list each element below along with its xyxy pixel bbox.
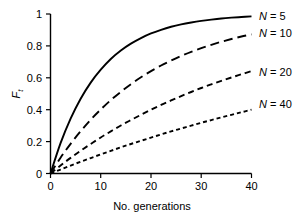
series-label-n-20: N = 20	[259, 66, 292, 78]
y-tick-label-2: 0.4	[27, 104, 42, 116]
curve-n-10	[51, 34, 252, 173]
x-tick-label-0: 0	[47, 180, 53, 192]
y-tick-label-1: 0.2	[27, 136, 42, 148]
curve-n-5	[51, 16, 252, 173]
x-tick-label-4: 40	[245, 180, 257, 192]
y-tick-label-5: 1	[36, 8, 42, 20]
series-label-n-40: N = 40	[259, 98, 292, 110]
y-tick-label-4: 0.8	[27, 40, 42, 52]
x-tick-label-3: 30	[195, 180, 207, 192]
data-series-group	[51, 16, 252, 173]
y-tick-label-3: 0.6	[27, 72, 42, 84]
svg-text:Ft: Ft	[10, 89, 25, 99]
curve-n-20	[51, 71, 252, 173]
y-axis-title-group: Ft	[10, 89, 25, 99]
series-label-n-10: N = 10	[259, 27, 292, 39]
x-axis-title: No. generations	[113, 200, 191, 212]
series-labels-group: N = 5 N = 10 N = 20 N = 40	[259, 10, 292, 110]
y-axis-title-subscript: t	[16, 89, 25, 92]
series-label-n-5: N = 5	[259, 10, 286, 22]
x-tick-label-2: 20	[145, 180, 157, 192]
x-tick-label-1: 10	[95, 180, 107, 192]
axis-group	[50, 14, 252, 174]
y-tick-labels: 0 0.2 0.4 0.6 0.8 1	[27, 8, 42, 180]
y-tick-label-0: 0	[36, 168, 42, 180]
x-tick-labels: 0 10 20 30 40	[47, 180, 257, 192]
chart-canvas: 0 0.2 0.4 0.6 0.8 1 0 10 20 30 40 No. ge…	[0, 0, 304, 218]
curve-n-40	[51, 110, 252, 174]
inbreeding-coefficient-chart: 0 0.2 0.4 0.6 0.8 1 0 10 20 30 40 No. ge…	[0, 0, 304, 218]
